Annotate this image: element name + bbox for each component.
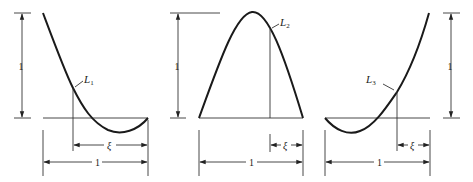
width-label: 1 — [377, 157, 382, 168]
width-label: 1 — [95, 157, 100, 168]
curve-label-l2: L2 — [279, 16, 290, 30]
label-leader — [75, 81, 83, 87]
xi-label: ξ — [410, 140, 415, 152]
xi-label: ξ — [283, 140, 288, 152]
curve-label-l1: L1 — [83, 73, 94, 87]
panel-l3: L3 1 ξ 1 — [325, 13, 460, 176]
label-leader — [272, 24, 279, 28]
height-label: 1 — [448, 61, 453, 72]
width-label: 1 — [249, 157, 254, 168]
xi-label: ξ — [107, 140, 112, 152]
label-leader — [383, 84, 394, 90]
height-label: 1 — [19, 61, 24, 72]
height-label: 1 — [175, 61, 180, 72]
curve-l1 — [43, 13, 148, 132]
panel-l2: 1 L2 ξ 1 — [170, 12, 303, 176]
curve-label-l3: L3 — [365, 73, 376, 87]
shape-functions-diagram: 1 L1 ξ 1 1 — [0, 0, 473, 182]
curve-l3 — [325, 13, 429, 133]
panel-l1: 1 L1 ξ 1 — [14, 13, 148, 176]
